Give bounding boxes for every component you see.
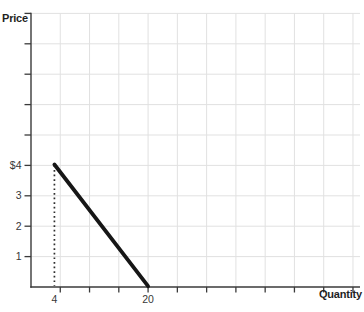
chart-canvas: $4321420 [0, 0, 364, 312]
y-tick-label: $4 [10, 159, 22, 171]
price-quantity-demand-chart: Price $4321420 Quantity [0, 0, 364, 312]
x-tick-label: 20 [142, 293, 154, 305]
y-tick-label: 2 [16, 220, 22, 232]
y-tick-label: 3 [16, 189, 22, 201]
x-tick-label: 4 [51, 293, 57, 305]
y-tick-label: 1 [16, 250, 22, 262]
x-axis-title: Quantity [319, 288, 362, 300]
demand-curve-line [54, 165, 148, 287]
